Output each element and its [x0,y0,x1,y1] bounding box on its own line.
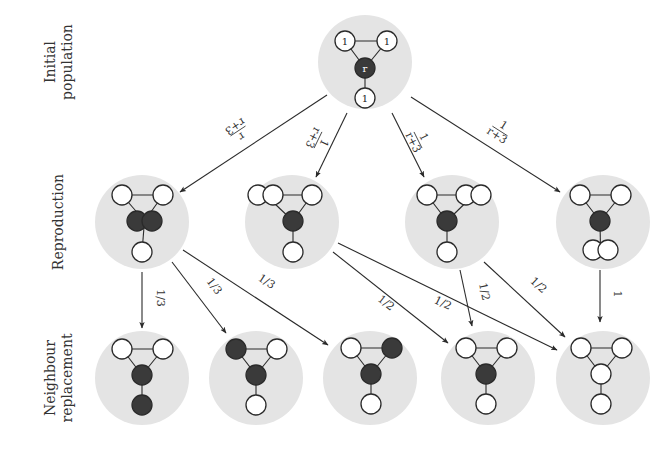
resident-individual [246,395,266,415]
svg-text:1/3: 1/3 [154,289,167,307]
edge-initial-R3: 1r+3 [392,113,434,177]
row-label-line: population [59,24,75,100]
row-label-line: replacement [59,333,75,422]
edge-probability-label: 1/3 [154,289,167,307]
svg-text:1/2: 1/2 [432,293,454,312]
resident-individual [283,242,303,262]
edge-probability-label: 1r+3 [484,114,516,147]
fitness-label: 1 [342,36,348,47]
resident-individual [598,240,618,260]
svg-text:1/3: 1/3 [256,271,278,292]
svg-text:r+3: r+3 [402,130,423,155]
resident-individual [456,338,476,358]
mutant-individual [382,338,402,358]
edge-R3-N5: 1/2 [484,262,565,337]
mutant-individual [476,364,496,384]
svg-text:1/3: 1/3 [204,275,225,297]
resident-individual [591,364,611,384]
edge-probability-label: 1/3 [204,275,225,297]
edge-probability-label: 1r+3 [402,125,434,155]
row-label-initial: Initialpopulation [42,24,75,100]
svg-text:1/2: 1/2 [528,274,550,296]
edge-probability-label: 1/3 [256,271,278,292]
resident-individual [153,339,173,359]
resident-individual [591,394,611,414]
transition-edges: rr+31r+31r+31r+31/31/31/31/21/21/21/21 [142,95,624,350]
edge-R1-N1: 1/3 [142,272,167,328]
fitness-label: r [363,63,368,74]
resident-individual [112,185,132,205]
row-label-line: Reproduction [50,174,66,270]
resident-individual [302,185,322,205]
resident-individual [417,185,437,205]
edge-probability-label: 1/2 [375,292,397,313]
resident-individual [476,394,496,414]
resident-individual [437,242,457,262]
edge-probability-label: 1/2 [476,282,492,302]
resident-individual [341,338,361,358]
mutant-individual [283,211,303,231]
resident-individual [132,242,152,262]
resident-individual [267,339,287,359]
mutant-individual [361,364,381,384]
resident-individual [153,185,173,205]
svg-text:1/2: 1/2 [476,282,492,302]
svg-text:r+3: r+3 [303,125,324,150]
svg-text:1/2: 1/2 [375,292,397,313]
edge-R4-N5: 1 [600,270,624,322]
fitness-label: 1 [362,93,368,104]
resident-individual [112,339,132,359]
edge-initial-R2: 1r+3 [303,113,347,177]
row-label-reproduction: Reproduction [50,174,66,270]
resident-individual [611,185,631,205]
edge-initial-R4: 1r+3 [411,97,560,192]
evolutionary-graph-diagram: InitialpopulationReproductionNeighbourre… [0,0,665,449]
mutant-individual [590,211,610,231]
svg-text:1: 1 [611,291,624,298]
mutant-individual [142,211,162,231]
resident-individual [497,338,517,358]
mutant-individual [132,395,152,415]
resident-individual [570,185,590,205]
edge-probability-label: 1/2 [528,274,550,296]
edge-R3-N4: 1/2 [460,270,493,326]
resident-individual [471,185,491,205]
mutant-individual [226,339,246,359]
edge-probability-label: 1/2 [432,293,454,312]
row-label-line: Initial [42,41,58,83]
edge-probability-label: 1r+3 [303,125,335,155]
row-label-neighbour: Neighbourreplacement [42,333,75,422]
edge-probability-label: rr+3 [222,115,254,148]
resident-individual [263,185,283,205]
row-labels: InitialpopulationReproductionNeighbourre… [42,24,75,422]
mutant-individual [246,365,266,385]
resident-individual [361,394,381,414]
edge-probability-label: 1 [611,291,624,298]
row-label-line: Neighbour [42,340,58,416]
mutant-individual [132,365,152,385]
resident-individual [612,338,632,358]
mutant-individual [437,211,457,231]
edge-R2-N4: 1/2 [333,252,448,343]
resident-individual [571,338,591,358]
fitness-label: 1 [384,36,390,47]
